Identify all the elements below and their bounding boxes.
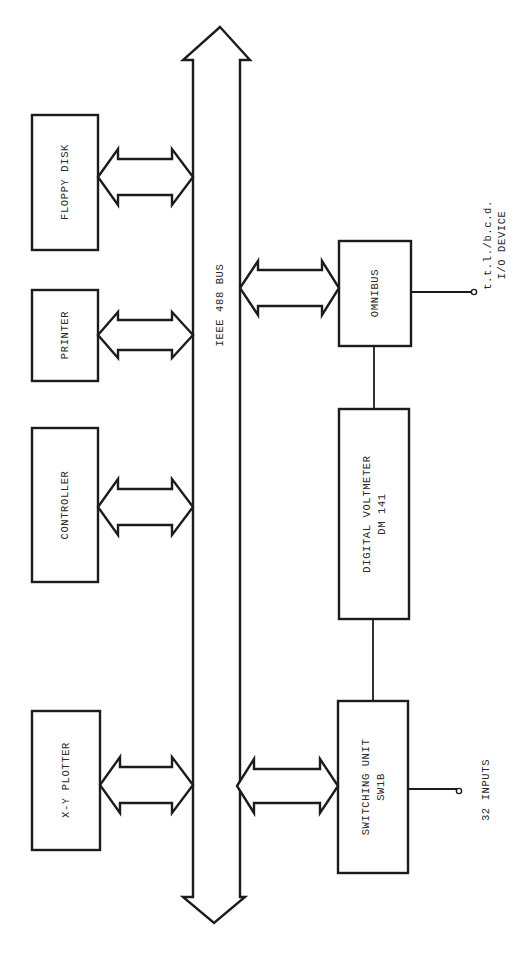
printer-bus-link-arrow-icon <box>98 312 193 358</box>
omnibus-output-label-line1: t.t.l./b.c.d. <box>482 200 494 290</box>
omnibus-label: OMNIBUS <box>369 269 381 317</box>
controller-label: CONTROLLER <box>59 470 71 539</box>
switching-input-terminal-icon <box>456 788 461 793</box>
dvm-sublabel: DM 141 <box>376 493 388 534</box>
device-omnibus: OMNIBUS t.t.l./b.c.d. I/O DEVICE <box>240 200 508 346</box>
device-digital-voltmeter: DIGITAL VOLTMETER DM 141 <box>339 409 409 619</box>
floppy-bus-link-arrow-icon <box>98 149 193 205</box>
device-switching-unit: SWITCHING UNIT SW1B 32 INPUTS <box>237 701 492 873</box>
device-printer: PRINTER <box>32 290 193 381</box>
device-xy-plotter: X-Y PLOTTER <box>32 711 193 850</box>
xy-plotter-label: X-Y PLOTTER <box>60 742 72 818</box>
switching-unit-box <box>338 701 408 873</box>
plotter-bus-link-arrow-icon <box>100 757 193 813</box>
omnibus-output-terminal-icon <box>471 289 476 294</box>
floppy-disk-label: FLOPPY DISK <box>59 144 71 220</box>
block-diagram: IEEE 488 BUS FLOPPY DISK PRINTER CONTROL… <box>0 0 528 961</box>
switching-unit-label: SWITCHING UNIT <box>360 739 372 836</box>
bus-label: IEEE 488 BUS <box>214 264 226 347</box>
dvm-label: DIGITAL VOLTMETER <box>361 455 373 572</box>
switching-unit-sublabel: SW1B <box>375 773 387 801</box>
device-floppy-disk: FLOPPY DISK <box>32 115 193 250</box>
controller-bus-link-arrow-icon <box>98 479 193 535</box>
dvm-box <box>339 409 409 619</box>
omnibus-bus-link-arrow-icon <box>240 261 339 315</box>
switching-bus-link-arrow-icon <box>237 759 338 813</box>
switching-input-label: 32 INPUTS <box>480 759 492 821</box>
printer-label: PRINTER <box>59 311 71 359</box>
device-controller: CONTROLLER <box>32 428 193 582</box>
omnibus-output-label-line2: I/O DEVICE <box>496 210 508 279</box>
